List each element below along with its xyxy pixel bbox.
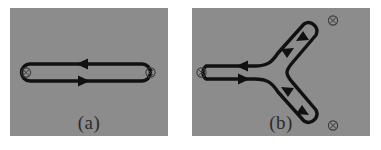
panel-a-label: (a): [10, 112, 168, 134]
arrowhead-top-left: [76, 59, 88, 70]
panel-b: (b): [192, 8, 370, 136]
figure-container: (a): [0, 0, 381, 150]
endpoint-marker-left-icon: [197, 68, 206, 77]
arrowhead-left-leg-upper: [236, 61, 248, 72]
arrowhead-left-leg-lower: [238, 74, 250, 85]
panel-b-label: (b): [192, 112, 370, 134]
arrowhead-upper-leg-inbound: [281, 48, 294, 58]
arrowhead-bottom-right: [78, 76, 90, 87]
panel-a: (a): [10, 8, 168, 136]
endpoint-marker-top-right-icon: [328, 16, 337, 25]
